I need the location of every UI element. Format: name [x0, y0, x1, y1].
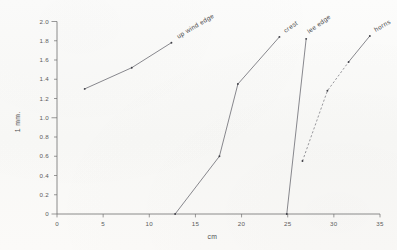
x-tick-label: 5: [101, 220, 105, 227]
series-label-crest: crest: [282, 19, 299, 34]
x-tick-label: 10: [146, 220, 154, 227]
y-tick-label: 0.6: [39, 152, 49, 159]
x-tick-label: 15: [192, 220, 200, 227]
data-point: [302, 160, 304, 162]
x-tick-label: 30: [330, 220, 338, 227]
y-tick-label: 1.4: [39, 75, 49, 82]
series-label-horns: horns: [373, 18, 392, 33]
series-line: [175, 37, 279, 214]
data-point: [278, 36, 280, 38]
series-up-wind-edge: up wind edge: [84, 12, 216, 90]
y-tick-label: 1.8: [39, 37, 49, 44]
data-point: [305, 38, 307, 40]
figure-canvas: 00.20.40.60.81.01.21.41.61.82.0051015202…: [0, 0, 397, 250]
x-tick-label: 0: [55, 220, 59, 227]
data-point: [84, 88, 86, 90]
y-tick-label: 1.6: [39, 56, 49, 63]
series-lee-edge: lee edge: [286, 13, 333, 215]
x-tick-label: 20: [238, 220, 246, 227]
y-axis-ticks: 00.20.40.60.81.01.21.41.61.82.0: [39, 18, 57, 218]
y-tick-label: 0.8: [39, 133, 49, 140]
y-tick-label: 1.0: [39, 114, 49, 121]
data-point: [131, 67, 133, 69]
x-tick-label: 35: [376, 220, 384, 227]
series-line: [349, 36, 370, 62]
series-label-up-wind-edge: up wind edge: [175, 12, 215, 41]
axis-lines: [57, 22, 380, 215]
x-axis-title: cm: [208, 233, 218, 240]
x-tick-label: 25: [284, 220, 292, 227]
series-line: [85, 43, 172, 89]
series-line: [287, 39, 306, 214]
data-point: [218, 155, 220, 157]
data-point: [369, 35, 371, 37]
y-tick-label: 2.0: [39, 18, 49, 25]
y-axis-title: 1 mm.: [14, 111, 21, 132]
axes-group: [57, 22, 380, 215]
series-label-lee-edge: lee edge: [306, 13, 333, 36]
series-crest: crest: [174, 19, 299, 215]
data-point: [174, 213, 176, 215]
y-tick-label: 0.2: [39, 191, 49, 198]
data-point: [348, 61, 350, 63]
x-axis-ticks: 05101520253035: [55, 214, 384, 227]
data-point: [237, 83, 239, 85]
series-line-dashed: [302, 62, 348, 161]
line-chart: 00.20.40.60.81.01.21.41.61.82.0051015202…: [0, 0, 397, 250]
y-tick-label: 0: [45, 210, 49, 217]
data-point: [326, 90, 328, 92]
y-tick-label: 0.4: [39, 172, 49, 179]
data-point: [170, 42, 172, 44]
series-horns: horns: [302, 18, 392, 162]
data-point: [286, 213, 288, 215]
y-tick-label: 1.2: [39, 95, 49, 102]
